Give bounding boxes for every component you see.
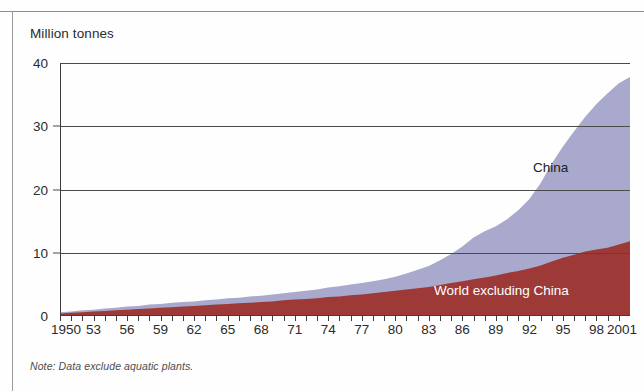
x-tick-label-2001: 2001 (607, 322, 637, 337)
x-tick-label-1974: 74 (321, 322, 336, 337)
y-tick-mark-30 (53, 126, 60, 127)
y-tick-mark-10 (53, 252, 60, 253)
x-tick-label-1971: 71 (287, 322, 302, 337)
x-tick-label-1983: 83 (421, 322, 436, 337)
y-tick-label-0: 0 (12, 309, 48, 324)
y-axis-title: Million tonnes (30, 26, 114, 41)
y-tick-label-40: 40 (12, 56, 48, 71)
x-tick-label-1962: 62 (187, 322, 202, 337)
figure-container: Million tonnes 010203040 195053565962656… (0, 0, 644, 391)
x-tick-label-1956: 56 (120, 322, 135, 337)
x-tick-label-1992: 92 (522, 322, 537, 337)
x-tick-label-1995: 95 (555, 322, 570, 337)
x-tick-label-1968: 68 (254, 322, 269, 337)
x-tick-label-1989: 89 (488, 322, 503, 337)
area-chart-svg (60, 63, 630, 322)
y-tick-label-20: 20 (12, 182, 48, 197)
frame-top-rule (0, 11, 644, 12)
x-tick-label-1980: 80 (388, 322, 403, 337)
y-tick-label-30: 30 (12, 119, 48, 134)
x-tick-label-1959: 59 (153, 322, 168, 337)
y-tick-label-10: 10 (12, 245, 48, 260)
x-tick-label-1965: 65 (220, 322, 235, 337)
area-series-group (60, 77, 630, 316)
plot-area (60, 63, 630, 322)
x-tick-label-1953: 53 (86, 322, 101, 337)
figure-note: Note: Data exclude aquatic plants. (30, 360, 193, 372)
y-tick-mark-20 (53, 189, 60, 190)
x-tick-label-1998: 98 (589, 322, 604, 337)
x-tick-label-1950: 1950 (51, 322, 81, 337)
x-tick-label-1986: 86 (455, 322, 470, 337)
x-minor-ticks-group (61, 316, 631, 321)
x-tick-label-1977: 77 (354, 322, 369, 337)
